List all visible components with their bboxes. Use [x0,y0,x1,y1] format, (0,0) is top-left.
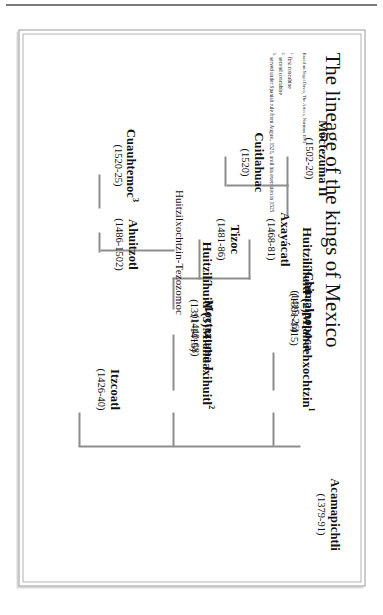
connector-huitzilihuitl2-chimalpopoca [272,352,274,390]
connector-arm-moctezuma2 [286,156,288,186]
connector-ahuitzotl-cuauhtemoc [98,174,100,208]
rotated-figure-wrapper: The lineage of the kings of Mexico Based… [0,0,383,615]
node-name: Itzcoatl [107,334,120,444]
genealogy-figure-frame: The lineage of the kings of Mexico Based… [18,29,365,586]
connector-arm-axayacatl [248,239,250,279]
node-moctezuma-i[interactable]: Moctezuma I (1440-68) [189,280,214,390]
node-dates: (1481-86) [215,184,226,294]
node-dates: (1440-68) [189,280,200,390]
connector-arm-cuitlahuac [224,156,226,186]
node-dates: (1502-20) [303,98,314,218]
node-itzcoatl[interactable]: Itzcoatl (1426-40) [95,334,120,444]
node-cuauhtemoc[interactable]: Cuauhtemoc3 (1520-25) [112,100,138,230]
node-name: Moctezuma II [315,98,328,218]
node-chimalpopoca[interactable]: Chimalpopoca (1415-26) [289,256,314,366]
connector-acamapichtli-stem [274,445,300,447]
node-dates: (1426-40) [95,334,106,444]
connector-arm-huitzilihuitl2 [272,412,274,446]
node-dates: (1520-25) [112,100,123,230]
node-name: Axayácatl [277,184,290,294]
node-name: Acamapichtli [327,454,340,574]
node-tizoc[interactable]: Tizoc (1481-86) [215,184,240,294]
node-name: Huitzilxochtzin-Tezozomoc [172,182,184,322]
node-cuitlahuac[interactable]: Cuitlahuac (1520) [239,102,264,222]
connector-arm-ahuitzotl [98,232,100,252]
connector-arm-huitzilihuitl3 [172,412,174,446]
genealogy-figure-inner-border: The lineage of the kings of Mexico Based… [22,33,361,582]
node-footnote-marker: 2 [206,405,215,409]
genealogy-chart-canvas: The lineage of the kings of Mexico Based… [23,34,360,581]
node-name: Tizoc [227,184,240,294]
node-axayacatl[interactable]: Axayácatl (1468-81) [265,184,290,294]
node-dates: (1379-91) [315,454,326,574]
node-dates: (1520) [239,102,250,222]
node-acamapichtli[interactable]: Acamapichtli (1379-91) [315,454,340,574]
node-name: Moctezuma I [201,280,214,390]
connector-acamapichtli-bus [78,445,274,447]
footnote-marker: 3. [271,52,276,55]
node-moctezuma-ii[interactable]: Moctezuma II (1502-20) [303,98,328,218]
node-name: Cuauhtemoc3 [124,100,138,230]
footnote-text: first concubine [286,56,292,88]
node-footnote-marker: 3 [130,197,139,201]
node-name: Cuitlahuac [251,102,264,222]
node-huitzilxochtzin-tezozomoc[interactable]: Huitzilxochtzin-Tezozomoc [172,182,184,322]
connector-huitzilihuitl3-moctezuma1 [172,334,174,390]
node-dates: (1468-81) [265,184,276,294]
node-dates: (1415-26) [289,256,300,366]
footnote-marker: 2. [280,52,285,55]
footnote-marker: 1. [289,52,294,55]
node-footnote-marker: 1 [306,407,315,411]
footnote-text: second concubine [277,56,283,94]
connector-arm-itzcoatl [78,412,80,446]
node-name: Chimalpopoca [301,256,314,366]
